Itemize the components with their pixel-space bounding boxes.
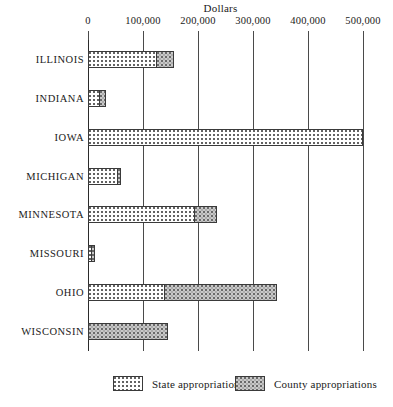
bar-segment-county <box>117 168 121 185</box>
category-label-illinois: ILLINOIS <box>0 54 84 65</box>
legend-item-county: County appropriations <box>235 376 377 391</box>
gridline <box>363 40 364 351</box>
bar-segment-state <box>88 284 165 301</box>
gridline <box>143 40 144 351</box>
bar-row <box>88 284 277 301</box>
bar-row <box>88 323 168 340</box>
bar-segment-county <box>156 51 174 68</box>
bar-row <box>88 129 363 146</box>
x-tick-label: 300,000 <box>235 15 271 26</box>
x-tick-label: 100,000 <box>125 15 161 26</box>
x-tick-label: 200,000 <box>180 15 216 26</box>
legend-swatch-state-icon <box>113 376 143 391</box>
legend-item-state: State appropriations <box>113 376 244 391</box>
x-tick-label: 0 <box>85 15 90 26</box>
bar-segment-state <box>88 168 118 185</box>
x-tickmark <box>143 31 144 40</box>
bar-chart: Dollars 0100,000200,000300,000400,000500… <box>0 0 393 407</box>
gridline <box>308 40 309 351</box>
bar-segment-county <box>99 90 106 107</box>
x-tick-label: 400,000 <box>290 15 326 26</box>
x-tickmark <box>363 31 364 40</box>
category-label-iowa: IOWA <box>0 132 84 143</box>
category-label-missouri: MISSOURI <box>0 248 84 259</box>
category-label-michigan: MICHIGAN <box>0 171 84 182</box>
gridline <box>198 40 199 351</box>
bar-segment-state <box>88 206 195 223</box>
x-tick-label: 500,000 <box>345 15 381 26</box>
category-label-ohio: OHIO <box>0 287 84 298</box>
gridline <box>253 40 254 351</box>
bar-row <box>88 51 174 68</box>
bar-segment-county <box>91 245 95 262</box>
x-tickmark <box>198 31 199 40</box>
bar-segment-state <box>88 51 157 68</box>
bar-segment-county <box>88 323 168 340</box>
plot-area <box>88 40 363 351</box>
bar-segment-county <box>164 284 277 301</box>
chart-legend: State appropriations County appropriatio… <box>0 372 393 398</box>
x-axis-title: Dollars <box>0 2 393 14</box>
x-tickmark <box>88 31 89 40</box>
legend-label-state: State appropriations <box>152 378 244 390</box>
category-label-minnesota: MINNESOTA <box>0 209 84 220</box>
category-label-wisconsin: WISCONSIN <box>0 326 84 337</box>
bar-row <box>88 245 95 262</box>
x-tickmark <box>308 31 309 40</box>
bar-segment-state <box>88 129 363 146</box>
y-axis-line <box>88 31 89 351</box>
x-tickmark <box>253 31 254 40</box>
bar-segment-county <box>194 206 217 223</box>
category-label-indiana: INDIANA <box>0 93 84 104</box>
bar-row <box>88 90 106 107</box>
bar-row <box>88 206 217 223</box>
legend-swatch-county-icon <box>235 376 265 391</box>
x-axis-title-text: Dollars <box>204 2 238 14</box>
bar-row <box>88 168 121 185</box>
legend-label-county: County appropriations <box>274 378 377 390</box>
